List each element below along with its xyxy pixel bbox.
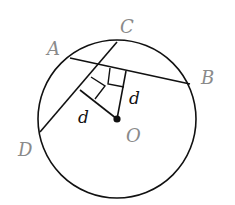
label-d: D xyxy=(17,139,33,160)
right-angle-mark-ab xyxy=(108,68,124,87)
label-distance-cd: d xyxy=(78,107,89,127)
label-b: B xyxy=(200,67,214,88)
perpendicular-to-ab xyxy=(117,71,126,119)
center-point xyxy=(113,115,120,122)
circle-chords-diagram: A C B D O d d xyxy=(0,0,235,205)
label-o: O xyxy=(126,125,141,146)
label-a: A xyxy=(45,38,60,59)
label-distance-ab: d xyxy=(129,88,140,108)
right-angle-mark-cd xyxy=(91,77,105,99)
label-c: C xyxy=(120,16,134,37)
